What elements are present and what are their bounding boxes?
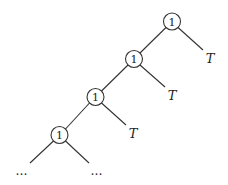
tree-node: 1 xyxy=(126,51,143,68)
tree-node: 1 xyxy=(51,127,68,144)
node-label: 1 xyxy=(92,91,99,104)
edge-n2-t2 xyxy=(140,65,165,87)
node-label: 1 xyxy=(169,16,176,29)
tree-node: 1 xyxy=(87,89,104,106)
tree-svg: 1 1 1 1 T T T … … xyxy=(0,0,228,185)
edge-n3-n4 xyxy=(66,103,90,129)
edge-n2-n3 xyxy=(102,65,129,91)
tree-node: 1 xyxy=(164,13,181,30)
leaf-label-t: T xyxy=(168,88,178,103)
edge-n1-n2 xyxy=(140,28,166,54)
edge-n4-c2 xyxy=(66,141,90,163)
leaf-label-t: T xyxy=(129,126,139,141)
node-label: 1 xyxy=(131,53,138,66)
leaf-label-t: T xyxy=(206,51,216,66)
edge-n3-t3 xyxy=(102,103,127,125)
continuation-ellipsis: … xyxy=(91,164,104,178)
edge-n1-t1 xyxy=(178,28,203,51)
tree-diagram: 1 1 1 1 T T T … … xyxy=(0,0,228,185)
node-label: 1 xyxy=(56,129,63,142)
edge-n4-c1 xyxy=(30,141,54,163)
continuation-ellipsis: … xyxy=(16,164,29,178)
